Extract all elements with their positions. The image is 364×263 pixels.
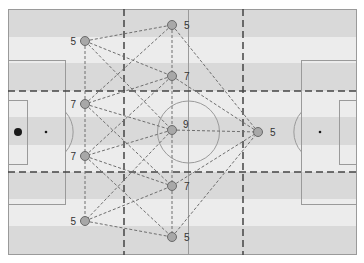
player-marker-icon <box>81 217 90 226</box>
pitch-stripe <box>8 9 357 37</box>
player-marker-icon <box>168 72 177 81</box>
player-marker-icon <box>168 126 177 135</box>
ball-icon <box>14 128 22 136</box>
player-marker-icon <box>81 37 90 46</box>
player-number-label: 7 <box>70 99 76 110</box>
pitch-stripe <box>8 199 357 226</box>
player-number-label: 5 <box>70 36 76 47</box>
player-marker-icon <box>81 100 90 109</box>
player-number-label: 7 <box>184 181 190 192</box>
left-penalty-spot <box>45 131 48 134</box>
player-number-label: 7 <box>184 71 190 82</box>
player-marker-icon <box>254 128 263 137</box>
player-marker-icon <box>81 152 90 161</box>
pitch-stripes <box>8 9 357 255</box>
pitch-stripe <box>8 226 357 255</box>
pitch-stripe <box>8 91 357 117</box>
player-number-label: 5 <box>70 216 76 227</box>
player-number-label: 5 <box>184 232 190 243</box>
player-marker-icon <box>168 182 177 191</box>
pitch-stripe <box>8 172 357 199</box>
player-marker-icon <box>168 233 177 242</box>
player-number-label: 5 <box>270 127 276 138</box>
pitch-stripe <box>8 145 357 172</box>
pitch: 5577957755 <box>0 0 364 263</box>
player-number-label: 5 <box>184 20 190 31</box>
right-penalty-spot <box>319 131 322 134</box>
soccer-field-diagram: 5577957755 <box>0 0 364 263</box>
player-number-label: 9 <box>183 119 189 130</box>
pitch-stripe <box>8 63 357 91</box>
player-marker-icon <box>168 21 177 30</box>
player-number-label: 7 <box>70 151 76 162</box>
pitch-stripe <box>8 37 357 63</box>
